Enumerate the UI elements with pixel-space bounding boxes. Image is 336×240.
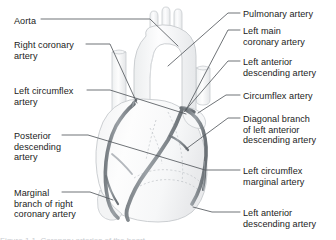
label-circumflex-artery: Circumflex artery [243,91,313,102]
label-posterior-descending-artery: Posterior descending artery [14,131,61,163]
label-aorta: Aorta [14,16,36,27]
label-left-circumflex-artery: Left circumflex artery [14,86,73,107]
leader-line-right-coronary-artery [86,44,137,103]
label-marginal-branch-of-right-coronary-artery: Marginal branch of right coronary artery [14,188,76,220]
figure-container: Aorta Right coronary artery Left circumf… [0,0,336,240]
pulmonary-vessel-stump [196,66,210,105]
label-left-anterior-descending-artery-top: Left anterior descending artery [243,57,316,78]
label-right-coronary-artery: Right coronary artery [14,40,74,61]
leader-line-left-anterior-descending-artery-bottom [193,207,240,212]
label-left-anterior-descending-artery-bottom: Left anterior descending artery [243,208,316,229]
label-pulmonary-artery: Pulmonary artery [243,9,313,20]
label-left-circumflex-marginal-artery: Left circumflex marginal artery [243,166,304,187]
heart-illustration-group [96,7,210,222]
label-left-main-coronary-artery: Left main coronary artery [243,26,305,47]
cropped-caption: Figure 1.1 Coronary arteries of the hear… [0,236,336,240]
label-diagonal-branch-of-left-anterior-descending-artery: Diagonal branch of left anterior descend… [243,114,316,146]
